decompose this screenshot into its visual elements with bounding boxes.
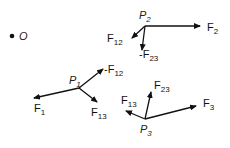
- origin-label: O: [19, 30, 28, 42]
- f3-label: F3: [203, 97, 215, 112]
- p3-label: P3: [140, 123, 152, 138]
- f1-label: F1: [34, 102, 46, 117]
- neg-f12-label: -F12: [104, 63, 124, 78]
- neg-f23-label: -F23: [139, 48, 159, 63]
- f12-arrow: [132, 26, 145, 38]
- particle-p3: P3 F3 F23 F13: [121, 79, 215, 138]
- f13-label-p3: F13: [121, 94, 137, 109]
- f13-arrow-p1: [79, 88, 97, 102]
- force-diagram: O P2 F2 F12 -F23 P1 F1 F13 -F12 P3 F3 F2…: [0, 0, 230, 148]
- f13-label-p1: F13: [91, 106, 107, 121]
- particle-p2: P2 F2 F12 -F23: [107, 9, 219, 63]
- origin-dot: [10, 34, 15, 39]
- f23-label: F23: [154, 79, 170, 94]
- f1-arrow: [34, 88, 79, 98]
- f3-arrow: [145, 106, 196, 119]
- f13-arrow-p3: [126, 111, 145, 119]
- neg-f23-arrow: [142, 26, 145, 50]
- particle-p1: P1 F1 F13 -F12: [34, 63, 124, 121]
- p1-label: P1: [69, 74, 81, 89]
- f12-label: F12: [107, 32, 123, 47]
- p2-label: P2: [139, 9, 151, 24]
- neg-f12-arrow: [79, 69, 103, 88]
- f2-label: F2: [207, 21, 219, 36]
- f23-arrow: [145, 92, 151, 119]
